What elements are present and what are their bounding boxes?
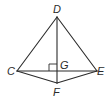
- segment-ef: [57, 71, 97, 83]
- geometry-diagram: D C E G F: [0, 0, 108, 102]
- segment-dc: [17, 17, 57, 71]
- label-c: C: [7, 65, 15, 77]
- segment-cf: [17, 71, 57, 83]
- right-angle-mark-g: [49, 64, 57, 71]
- label-g: G: [60, 59, 69, 71]
- label-f: F: [53, 86, 61, 98]
- label-d: D: [53, 3, 61, 15]
- label-e: E: [97, 65, 105, 77]
